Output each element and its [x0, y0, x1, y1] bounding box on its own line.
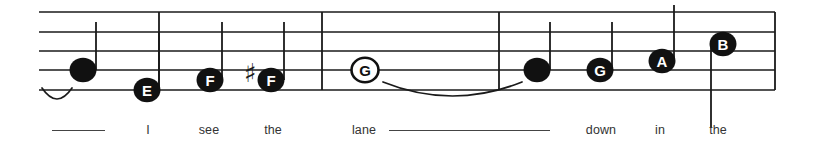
- note-1[interactable]: [70, 58, 97, 82]
- lyric-i: I: [146, 123, 150, 137]
- note-stems-group: [96, 5, 711, 128]
- accidentals-group: ♯: [244, 58, 257, 88]
- lyric-see: see: [199, 123, 219, 137]
- lyric-lane: lane: [352, 123, 376, 137]
- note-7[interactable]: G: [587, 58, 614, 82]
- noteheads-group[interactable]: EFFGGAB: [70, 32, 737, 102]
- lyric-extender-1: [52, 130, 105, 131]
- note-6[interactable]: [524, 58, 551, 82]
- note-1-head-filled: [70, 58, 97, 82]
- lyric-in: in: [655, 123, 665, 137]
- note-3-letter: F: [205, 72, 214, 89]
- note-3[interactable]: F: [197, 68, 224, 92]
- note-2-letter: E: [142, 82, 152, 99]
- lyric-down: down: [586, 123, 616, 137]
- note-5[interactable]: G: [352, 58, 379, 82]
- note-4[interactable]: F: [258, 68, 285, 92]
- note-5-letter: G: [359, 62, 371, 79]
- note-2[interactable]: E: [134, 78, 161, 102]
- music-staff-canvas: ♯ EFFGGAB Iseethelanedowninthe: [0, 0, 817, 154]
- note-4-letter: F: [266, 72, 275, 89]
- sharp-sign: ♯: [244, 58, 257, 88]
- slur-lane: [383, 82, 522, 96]
- note-6-head-filled: [524, 58, 551, 82]
- lyric-the-2: the: [709, 123, 727, 137]
- note-9-letter: B: [718, 36, 729, 53]
- lyric-the-1: the: [264, 123, 282, 137]
- note-8-letter: A: [657, 53, 668, 70]
- note-9[interactable]: B: [710, 32, 737, 56]
- note-8[interactable]: A: [649, 49, 676, 73]
- note-7-letter: G: [594, 62, 606, 79]
- lyric-extender-2: [389, 130, 550, 131]
